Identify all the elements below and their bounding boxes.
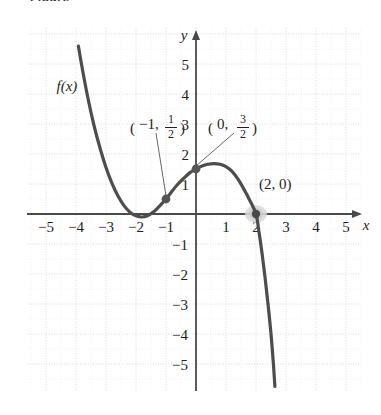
cartesian-plot: −5−4−3−2−112345 54321−1−2−3−4−5 x y f(x)… <box>0 0 381 415</box>
point-annotation-2-0: (2, 0) <box>259 176 292 193</box>
gridlines <box>28 28 361 391</box>
x-tick--4: −4 <box>68 219 84 235</box>
x-tick--3: −3 <box>98 219 114 235</box>
y-tick--3: −3 <box>172 297 188 313</box>
x-axis-label: x <box>362 217 370 233</box>
y-tick--2: −2 <box>172 267 188 283</box>
x-tick-5: 5 <box>342 219 350 235</box>
marked-point <box>162 195 171 204</box>
svg-text:2: 2 <box>240 127 246 141</box>
x-tick-4: 4 <box>312 219 320 235</box>
x-tick--2: −2 <box>128 219 144 235</box>
x-tick--5: −5 <box>38 219 54 235</box>
svg-text:−1,: −1, <box>139 116 159 132</box>
y-tick--1: −1 <box>172 237 188 253</box>
x-tick--1: −1 <box>158 219 174 235</box>
x-tick-3: 3 <box>282 219 290 235</box>
svg-text:(: ( <box>208 120 213 137</box>
svg-text:(: ( <box>130 120 135 137</box>
y-tick--5: −5 <box>172 357 188 373</box>
y-tick-2: 2 <box>182 147 190 163</box>
function-name-label: f(x) <box>57 78 78 95</box>
svg-text:1: 1 <box>168 112 174 126</box>
svg-text:): ) <box>252 120 257 137</box>
y-tick-5: 5 <box>182 57 190 73</box>
svg-text:2: 2 <box>168 127 174 141</box>
x-tick-1: 1 <box>222 219 230 235</box>
svg-text:0,: 0, <box>217 116 228 132</box>
y-tick-4: 4 <box>182 87 190 103</box>
svg-text:3: 3 <box>240 112 246 126</box>
marked-point <box>252 210 260 218</box>
svg-text:): ) <box>180 120 185 137</box>
y-tick--4: −4 <box>172 327 188 343</box>
y-axis-label: y <box>179 27 188 43</box>
marked-point <box>192 165 201 174</box>
graph-figure: −5−4−3−2−112345 54321−1−2−3−4−5 x y f(x)… <box>0 0 381 415</box>
